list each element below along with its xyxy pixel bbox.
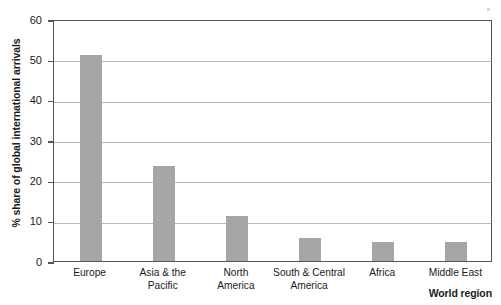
- bar: [299, 238, 321, 261]
- y-tick-label: 10: [12, 216, 42, 227]
- gridline: [54, 102, 491, 103]
- bar: [153, 166, 175, 261]
- y-tick-mark: [48, 182, 54, 183]
- y-tick-label: 50: [12, 55, 42, 66]
- bar-chart-figure: % share of global international arrivals…: [0, 0, 501, 305]
- y-tick-mark: [48, 61, 54, 62]
- gridline: [54, 61, 491, 62]
- y-tick-label: 30: [12, 136, 42, 147]
- y-tick-label: 60: [12, 15, 42, 26]
- y-tick-label: 20: [12, 176, 42, 187]
- bar: [372, 242, 394, 261]
- y-tick-label: 40: [12, 95, 42, 106]
- y-tick-mark: [48, 20, 54, 21]
- y-tick-mark: [48, 222, 54, 223]
- y-tick-label: 0: [12, 257, 42, 268]
- x-category-label: South & Central America: [273, 267, 346, 292]
- gridline: [54, 223, 491, 224]
- gridline: [54, 142, 491, 143]
- x-category-label: Asia & the Pacific: [126, 267, 199, 292]
- y-tick-mark: [48, 141, 54, 142]
- x-category-label: Africa: [346, 267, 419, 280]
- page-speck: [487, 8, 490, 11]
- gridline: [54, 182, 491, 183]
- x-category-label: Europe: [53, 267, 126, 280]
- bar: [80, 55, 102, 261]
- plot-area: [53, 20, 492, 262]
- x-axis-title: World region: [429, 287, 492, 299]
- bar: [445, 242, 467, 261]
- y-tick-mark: [48, 262, 54, 263]
- bar: [226, 216, 248, 261]
- y-tick-mark: [48, 101, 54, 102]
- x-category-label: Middle East: [419, 267, 492, 280]
- x-category-label: North America: [199, 267, 272, 292]
